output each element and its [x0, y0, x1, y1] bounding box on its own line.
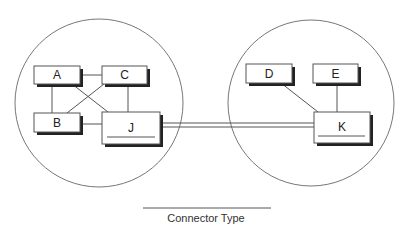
node-b[interactable]: B	[34, 113, 83, 135]
network-diagram: A C B J D E K Connector Type	[0, 0, 403, 226]
node-k[interactable]: K	[314, 112, 373, 146]
node-e-label: E	[331, 67, 339, 81]
legend: Connector Type	[143, 208, 271, 224]
node-b-label: B	[53, 116, 61, 130]
node-d-label: D	[265, 67, 274, 81]
edge-d-k	[281, 83, 318, 112]
node-j-label: J	[128, 121, 134, 135]
connector-j-k	[160, 123, 314, 127]
right-group-circle	[228, 20, 394, 186]
node-a[interactable]: A	[34, 66, 83, 87]
node-e[interactable]: E	[313, 64, 361, 86]
edge-a-j	[72, 84, 108, 112]
node-d[interactable]: D	[246, 64, 295, 86]
node-a-label: A	[53, 68, 61, 82]
node-c-label: C	[120, 68, 129, 82]
node-k-label: K	[338, 120, 346, 134]
legend-label: Connector Type	[167, 212, 244, 224]
node-j[interactable]: J	[102, 112, 163, 147]
node-c[interactable]: C	[102, 66, 150, 87]
right-group-edges	[281, 83, 337, 112]
edge-c-b	[67, 84, 104, 113]
left-group-circle	[15, 19, 183, 187]
